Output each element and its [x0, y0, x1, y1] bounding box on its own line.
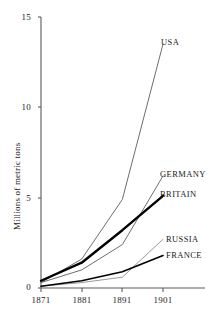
line-chart: 15 10 5 0 1871 1881 1891 1901 Millions o…	[0, 0, 220, 322]
y-tick-label-0: 0	[9, 283, 31, 292]
data-series-layer	[41, 44, 163, 286]
axis-lines	[41, 17, 205, 288]
series-label-britain: BRITAIN	[160, 190, 197, 199]
y-axis-title: Millions of metric tons	[13, 143, 22, 230]
x-tick-marks	[41, 288, 163, 292]
x-tick-label-1901: 1901	[146, 296, 180, 305]
x-tick-label-1881: 1881	[65, 296, 99, 305]
series-label-france: FRANCE	[166, 251, 202, 260]
series-label-russia: RUSSIA	[166, 235, 199, 244]
plot-area	[0, 0, 220, 322]
y-tick-label-15: 15	[9, 13, 31, 22]
x-tick-label-1871: 1871	[24, 296, 58, 305]
series-label-germany: GERMANY	[160, 170, 206, 179]
y-tick-label-10: 10	[9, 103, 31, 112]
series-line-france	[41, 255, 163, 286]
series-line-britain	[41, 196, 163, 281]
series-label-usa: USA	[161, 38, 179, 47]
x-tick-label-1891: 1891	[105, 296, 139, 305]
